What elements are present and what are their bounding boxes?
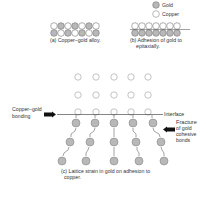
legend-copper-swatch	[153, 11, 160, 18]
panel-c-copper-atoms	[75, 74, 151, 115]
legend-gold-label: Gold	[162, 2, 173, 8]
panel-b-caption-line2: epitaxially.	[136, 43, 160, 49]
bonding-label-line2: bonding	[12, 113, 30, 119]
panel-c-gold-atoms	[58, 119, 168, 165]
bonding-label-line1: Copper–gold	[12, 106, 42, 112]
panel-a-caption: (a) Copper–gold alloy.	[50, 37, 101, 43]
panel-c-caption-line2: copper.	[64, 174, 81, 180]
legend-gold-swatch	[153, 2, 160, 9]
panel-a-lattice	[51, 23, 100, 37]
bonding-arrow-icon	[44, 112, 56, 118]
fracture-label-line4: bonds	[176, 137, 190, 143]
fracture-arrow-icon	[163, 127, 175, 133]
interface-label: Interface	[164, 111, 184, 117]
legend-copper-label: Copper	[162, 11, 179, 17]
